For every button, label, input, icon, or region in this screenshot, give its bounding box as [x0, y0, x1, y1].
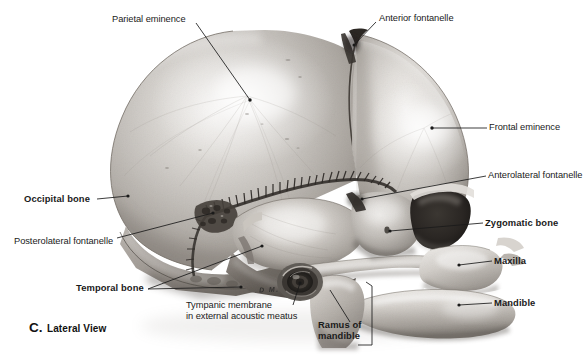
label-ramus-of-mandible: Ramus of mandible — [318, 319, 362, 342]
label-temporal-bone: Temporal bone — [76, 282, 144, 293]
external-acoustic-meatus-region — [277, 263, 323, 301]
label-ramus-of-mandible-line2: mandible — [318, 330, 362, 341]
caption-letter: C. — [29, 320, 43, 335]
label-parietal-eminence: Parietal eminence — [112, 14, 186, 25]
label-mandible: Mandible — [494, 297, 535, 308]
label-anterior-fontanelle: Anterior fontanelle — [379, 13, 454, 24]
label-tympanic-membrane-line1: Tympanic membrane — [186, 300, 297, 311]
artist-signature: D M. — [259, 285, 280, 293]
figure-neonatal-skull-lateral: Parietal eminence Anterior fontanelle Fr… — [0, 0, 588, 355]
label-frontal-eminence: Frontal eminence — [489, 122, 560, 133]
label-ramus-of-mandible-line1: Ramus of — [318, 319, 362, 330]
label-zygomatic-bone: Zygomatic bone — [485, 217, 558, 228]
sphenoid-greater-wing — [346, 192, 421, 260]
label-tympanic-membrane: Tympanic membrane in external acoustic m… — [186, 300, 297, 323]
orbit-region — [410, 184, 474, 252]
label-occipital-bone: Occipital bone — [24, 193, 90, 204]
label-maxilla: Maxilla — [494, 255, 526, 266]
caption-text: Lateral View — [47, 323, 106, 334]
label-anterolateral-fontanelle: Anterolateral fontanelle — [488, 170, 582, 181]
label-tympanic-membrane-line2: in external acoustic meatus — [186, 311, 297, 322]
label-posterolateral-fontanelle: Posterolateral fontanelle — [14, 236, 113, 247]
figure-caption: C. Lateral View — [29, 318, 106, 336]
